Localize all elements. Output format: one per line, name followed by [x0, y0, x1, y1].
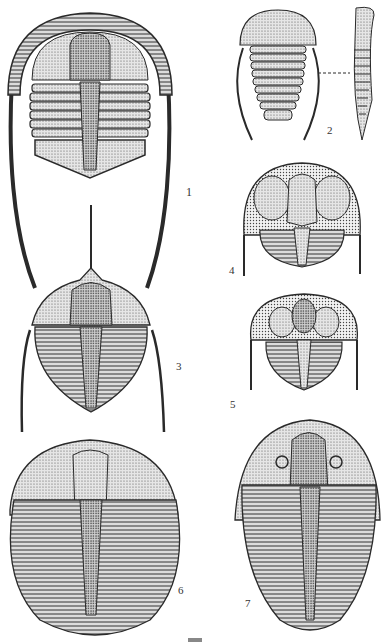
- figure-label-4: 4: [229, 264, 235, 276]
- trilobite-figure-6: [10, 440, 180, 635]
- figure-label-2: 2: [327, 124, 333, 136]
- trilobite-figure-4: [244, 163, 360, 276]
- figure-label-6: 6: [178, 584, 184, 596]
- plate-illustration: 1 2: [0, 0, 385, 642]
- figure-label-5: 5: [230, 398, 236, 410]
- page-number-partial: [188, 638, 202, 642]
- trilobite-figure-2: [237, 7, 374, 140]
- trilobite-figure-3: [22, 205, 164, 432]
- figure-label-1: 1: [186, 185, 192, 199]
- trilobite-figure-7: [235, 420, 380, 630]
- figure-label-3: 3: [176, 360, 182, 372]
- trilobite-figure-5: [251, 294, 358, 390]
- figure-label-7: 7: [245, 597, 251, 609]
